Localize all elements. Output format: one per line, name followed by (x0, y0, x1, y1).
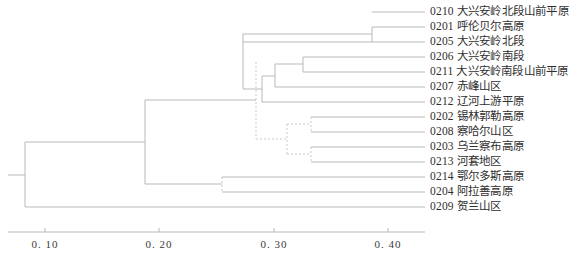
axis-tick-label-0.4: 0. 40 (375, 238, 402, 250)
axis-tick-marks (45, 228, 388, 232)
dendrogram-canvas (0, 0, 581, 263)
axis-tick-label-0.2: 0. 20 (146, 238, 173, 250)
axis-tick-label-0.3: 0. 30 (261, 238, 288, 250)
axis-tick-label-0.1: 0. 10 (32, 238, 59, 250)
leaf-branch-lines (25, 12, 425, 207)
x-axis (8, 228, 425, 232)
dendrogram-figure: 0210 大兴安岭北段山前平原0201 呼伦贝尔高原0205 大兴安岭北段020… (0, 0, 581, 263)
